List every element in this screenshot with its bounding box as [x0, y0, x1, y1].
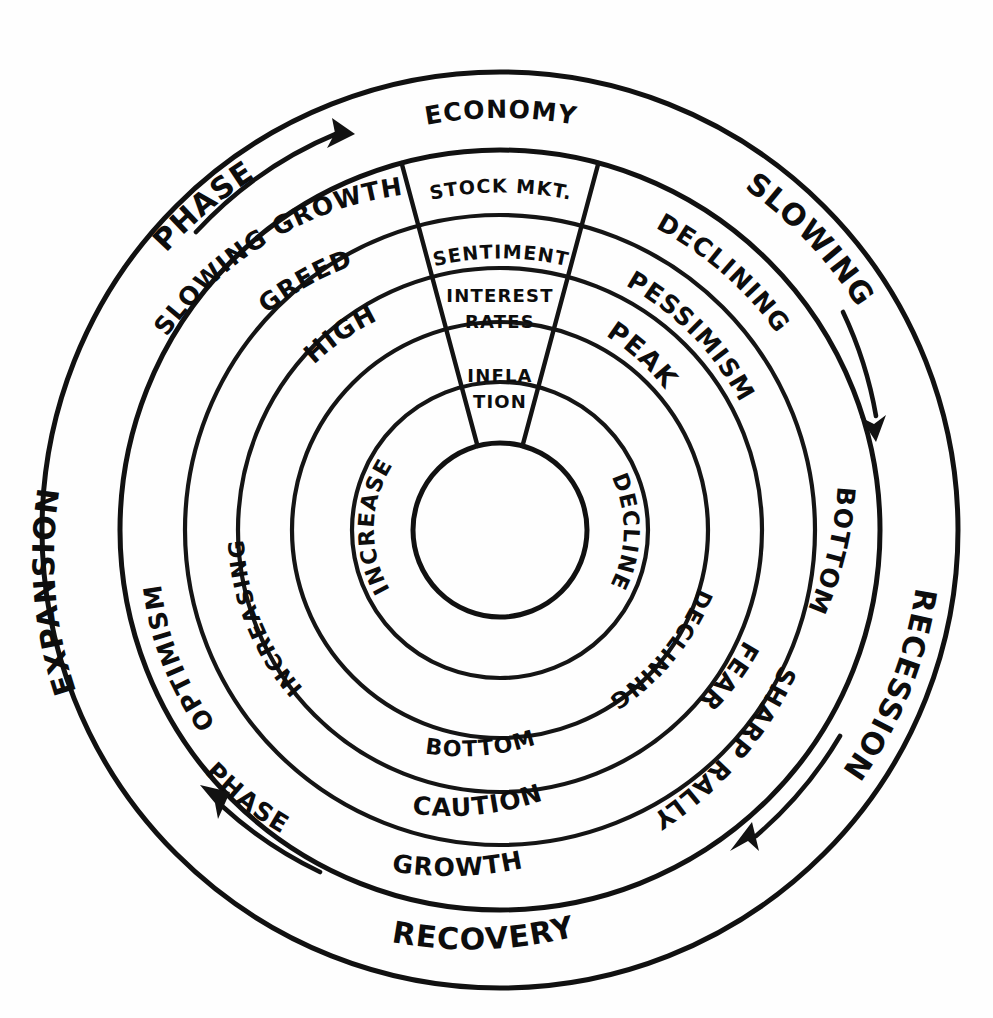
ring-outline-inflation-outer [352, 382, 648, 678]
ring-phase-labels: SLOWING RECESSION RECOVERY EXPANSION PHA… [26, 153, 944, 956]
stock-label-greed: GREED [253, 243, 356, 318]
stock-label-optimism: OPTIMISM [138, 582, 221, 737]
phase-label-slowing: SLOWING [740, 165, 882, 312]
inner-label-decline: DECLINE [605, 469, 644, 594]
ring-economy-labels: DECLINING BOTTOM SHARP RALLY GROWTH PHAS… [148, 172, 860, 882]
header-inflation-line2: TION [473, 391, 527, 412]
phase-label-expansion: EXPANSION [26, 485, 83, 700]
phase-label-recession: RECESSION [836, 586, 944, 787]
wheel-svg: ECONOMY STOCK MKT. SENTIMENT INTEREST RA… [0, 0, 993, 1018]
header-labels: ECONOMY STOCK MKT. SENTIMENT INTEREST RA… [422, 95, 579, 412]
header-inflation-line1: INFLA [467, 365, 532, 386]
header-stock-mkt: STOCK MKT. [428, 174, 575, 203]
phase-label-recovery: RECOVERY [390, 909, 578, 957]
header-economy: ECONOMY [422, 95, 579, 131]
economic-cycle-diagram: ECONOMY STOCK MKT. SENTIMENT INTEREST RA… [0, 0, 993, 1018]
economy-label-growth: GROWTH [391, 845, 526, 882]
header-interest-rates-line1: INTEREST [446, 285, 553, 306]
ring-inner-labels: DECLINE INCREASE [354, 454, 644, 599]
economy-label-bottom: BOTTOM [802, 486, 861, 619]
header-interest-rates-line2: RATES [465, 311, 535, 332]
phase-label-phase: PHASE [146, 153, 260, 257]
header-sentiment: SENTIMENT [431, 240, 572, 270]
sentiment-label-high: HIGH [298, 298, 382, 369]
center-circle [413, 443, 587, 617]
